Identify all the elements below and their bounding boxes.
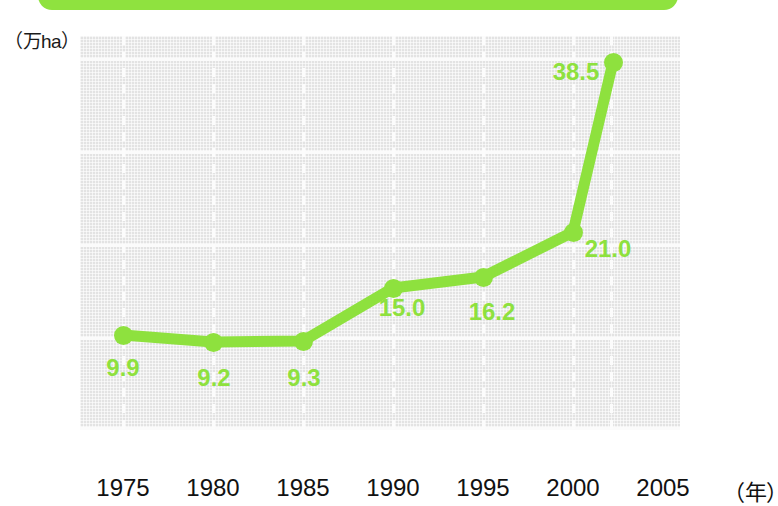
gridline-horizontal-0 (80, 427, 680, 430)
data-label-2000: 21.0 (585, 235, 632, 263)
data-label-1995: 16.2 (469, 298, 516, 326)
gridline-horizontal-10 (80, 337, 680, 340)
gridline-horizontal-30 (80, 151, 680, 154)
data-label-1985: 9.3 (287, 364, 320, 392)
data-point-1975 (114, 326, 133, 345)
plot-area: 40 30 20 10 0 1975 1980 1985 1990 1995 2… (80, 36, 680, 430)
gridline-vertical-1995 (482, 36, 485, 430)
x-axis-unit-label: （年） (723, 474, 778, 506)
data-point-2000 (564, 223, 583, 242)
data-point-1995 (474, 268, 493, 287)
x-tick-2005: 2005 (603, 474, 723, 502)
data-label-1980: 9.2 (197, 364, 230, 392)
data-point-1985 (294, 332, 313, 351)
gridline-vertical-2005 (610, 36, 613, 430)
data-point-2005 (604, 53, 623, 72)
data-label-1990: 15.0 (379, 294, 426, 322)
data-label-1975: 9.9 (106, 354, 139, 382)
data-label-2005: 38.5 (553, 58, 600, 86)
data-point-1980 (204, 333, 223, 352)
gridline-vertical-1990 (392, 36, 395, 430)
title-banner (38, 0, 678, 10)
y-axis-unit-label: （万ha） (4, 26, 80, 53)
